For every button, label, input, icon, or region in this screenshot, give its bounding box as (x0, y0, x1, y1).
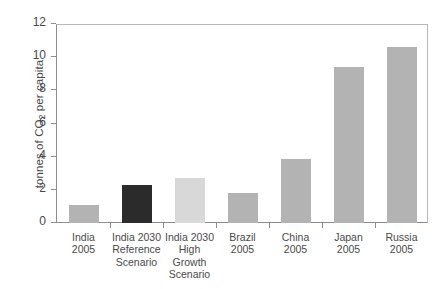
y-axis-tick-label: 4 (0, 148, 46, 162)
x-axis-label-line: Scenario (163, 268, 216, 280)
x-axis-label: Japan2005 (322, 231, 375, 256)
x-axis-label-line: 2005 (322, 243, 375, 255)
x-axis-label-line: Scenario (110, 256, 163, 268)
x-axis-tick-mark (375, 223, 376, 228)
y-axis-tick-mark (51, 56, 56, 57)
x-axis-label-line: Brazil (216, 231, 269, 243)
x-axis-label-line: India 2030 (110, 231, 163, 243)
y-axis-tick-mark (51, 23, 56, 24)
x-axis-label-line: India 2030 (163, 231, 216, 243)
x-axis-label-line: India (57, 231, 110, 243)
x-axis-label-line: Japan (322, 231, 375, 243)
bar-chart: tonnes of CO2 per capita 121086420 India… (0, 0, 443, 289)
x-axis-tick-mark (269, 223, 270, 228)
x-axis-label-line: Russia (375, 231, 428, 243)
bars-layer (57, 24, 428, 223)
x-axis-label-line: High (163, 243, 216, 255)
x-axis-label: China2005 (269, 231, 322, 256)
bar (334, 67, 364, 223)
x-axis-label: India 2030ReferenceScenario (110, 231, 163, 268)
x-axis-tick-mark (216, 223, 217, 228)
bar (69, 205, 99, 223)
x-axis-label-line: 2005 (375, 243, 428, 255)
x-axis-label: India 2030HighGrowthScenario (163, 231, 216, 281)
bar (387, 47, 417, 223)
y-axis-tick-mark (51, 222, 56, 223)
x-axis-label: Russia2005 (375, 231, 428, 256)
x-axis-label: India2005 (57, 231, 110, 256)
x-axis-label-line: China (269, 231, 322, 243)
x-axis-label-line: Growth (163, 256, 216, 268)
y-axis-tick-label: 8 (0, 81, 46, 95)
y-axis-tick-label: 2 (0, 181, 46, 195)
bar (281, 159, 311, 223)
x-axis-tick-mark (163, 223, 164, 228)
y-axis-tick-label: 0 (0, 214, 46, 228)
x-axis-label-line: 2005 (57, 243, 110, 255)
y-axis-tick-mark (51, 89, 56, 90)
y-axis-tick-mark (51, 123, 56, 124)
x-axis-label-line: 2005 (216, 243, 269, 255)
y-axis-tick-mark (51, 156, 56, 157)
x-axis-tick-mark (110, 223, 111, 228)
bar (122, 185, 152, 223)
y-axis-tick-label: 6 (0, 115, 46, 129)
y-axis-tick-mark (51, 189, 56, 190)
x-axis-label-line: Reference (110, 243, 163, 255)
x-axis-tick-mark (322, 223, 323, 228)
y-axis-tick-label: 10 (0, 48, 46, 62)
x-axis-label: Brazil2005 (216, 231, 269, 256)
bar (228, 193, 258, 223)
y-axis-tick-label: 12 (0, 15, 46, 29)
bar (175, 178, 205, 223)
x-axis-label-line: 2005 (269, 243, 322, 255)
